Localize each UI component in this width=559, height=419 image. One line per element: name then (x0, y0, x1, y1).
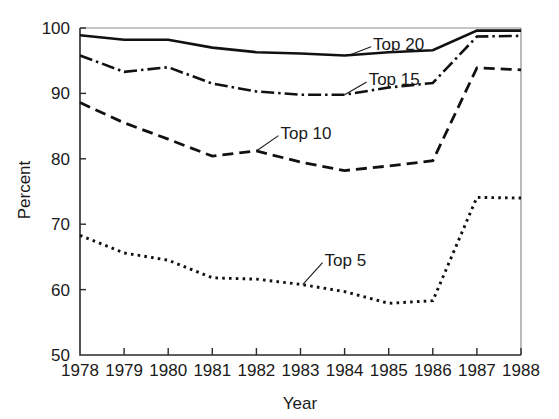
x-tick-label: 1982 (237, 361, 275, 380)
x-tick-label: 1984 (326, 361, 364, 380)
leader-line-top-5 (303, 263, 323, 285)
y-axis-title: Percent (15, 160, 34, 219)
axis-ticks (80, 28, 521, 355)
x-tick-label: 1988 (502, 361, 540, 380)
x-axis-title: Year (283, 394, 318, 413)
series-line-top-5 (80, 197, 521, 303)
series-annotation-top-20: Top 20 (373, 35, 424, 54)
series-annotations: Top 20Top 15Top 10Top 5 (256, 35, 424, 285)
series-line-top-20 (80, 31, 521, 56)
x-tick-label: 1980 (149, 361, 187, 380)
plot-axes (80, 28, 521, 355)
y-tick-label: 70 (51, 215, 70, 234)
series-annotation-top-10: Top 10 (280, 124, 331, 143)
plot-frame (80, 28, 521, 355)
series-line-top-10 (80, 68, 521, 171)
series-annotation-top-15: Top 15 (369, 70, 420, 89)
x-tick-label: 1979 (105, 361, 143, 380)
series-line-top-15 (80, 36, 521, 95)
x-tick-label: 1981 (193, 361, 231, 380)
x-tick-label: 1986 (414, 361, 452, 380)
y-tick-label: 80 (51, 150, 70, 169)
x-tick-label: 1983 (282, 361, 320, 380)
x-tick-label: 1987 (458, 361, 496, 380)
x-tick-label: 1978 (61, 361, 99, 380)
y-tick-label: 100 (42, 19, 70, 38)
series-annotation-top-5: Top 5 (325, 251, 367, 270)
leader-line-top-10 (256, 136, 278, 151)
y-tick-label: 90 (51, 84, 70, 103)
chart-container: Top 20Top 15Top 10Top 5 5060708090100197… (0, 0, 559, 419)
x-tick-label: 1985 (370, 361, 408, 380)
y-tick-label: 60 (51, 281, 70, 300)
line-chart: Top 20Top 15Top 10Top 5 5060708090100197… (0, 0, 559, 419)
axis-tick-labels: 5060708090100197819791980198119821983198… (42, 19, 540, 380)
data-series-group (80, 31, 521, 304)
